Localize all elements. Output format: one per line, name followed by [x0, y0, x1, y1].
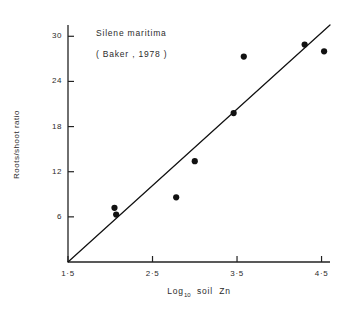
data-point: [111, 205, 117, 211]
y-axis-ticks: [68, 36, 74, 217]
scatter-plot-canvas: [0, 0, 349, 309]
y-axis-tick-label: 12: [22, 167, 62, 176]
x-axis-title-subscript: 10: [184, 292, 191, 298]
annotation-species-name: Silene maritima: [96, 28, 167, 38]
data-point: [321, 48, 327, 54]
chart-figure: 612182430 1·52·53·54·5 Roots/shoot ratio…: [0, 0, 349, 309]
data-point: [241, 54, 247, 60]
data-point-group: [111, 41, 327, 217]
annotation-citation: ( Baker , 1978 ): [96, 49, 167, 59]
x-axis-title: Log10 soil Zn: [68, 286, 330, 298]
y-axis-tick-label: 30: [22, 31, 62, 40]
y-axis-tick-label: 18: [22, 122, 62, 131]
data-point: [302, 41, 308, 47]
x-axis-tick-label: 1·5: [48, 269, 88, 278]
data-point: [192, 158, 198, 164]
y-axis-tick-label: 6: [22, 212, 62, 221]
data-point: [113, 212, 119, 218]
x-axis-tick-label: 4·5: [302, 269, 342, 278]
x-axis-ticks: [68, 256, 322, 262]
data-point: [231, 110, 237, 116]
x-axis-tick-label: 3·5: [217, 269, 257, 278]
regression-fit-line: [68, 25, 330, 262]
y-axis-tick-label: 24: [22, 76, 62, 85]
data-point: [173, 194, 179, 200]
y-axis-title: Roots/shoot ratio: [12, 85, 21, 205]
x-axis-tick-label: 2·5: [133, 269, 173, 278]
